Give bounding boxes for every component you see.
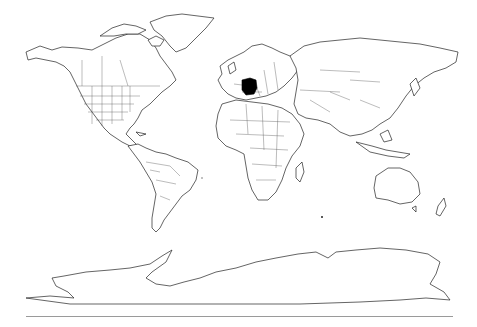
south-america — [128, 144, 198, 232]
baseline-divider — [26, 316, 453, 317]
germany-highlight — [242, 78, 257, 95]
europe — [218, 44, 300, 100]
world-map — [0, 0, 477, 327]
north-america — [26, 14, 214, 146]
africa — [216, 100, 304, 200]
oceania — [374, 168, 446, 216]
asia — [290, 38, 458, 158]
antarctica — [26, 248, 450, 304]
